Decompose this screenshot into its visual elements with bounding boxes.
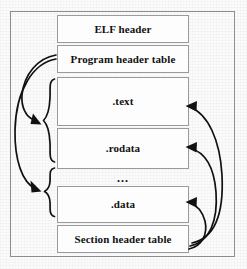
- sections-ellipsis: ...: [57, 171, 189, 185]
- rodata-section-box: .rodata: [57, 128, 189, 169]
- section-header-table-box: Section header table: [57, 225, 189, 253]
- elf-header-label: ELF header: [94, 23, 151, 34]
- program-header-table-label: Program header table: [71, 53, 176, 64]
- data-section-box: .data: [57, 186, 189, 223]
- rodata-section-label: .rodata: [106, 143, 140, 154]
- text-section-label: .text: [113, 96, 134, 107]
- section-header-table-label: Section header table: [74, 233, 171, 244]
- figure-canvas: ELF header Program header table .text .r…: [0, 0, 247, 269]
- elf-header-box: ELF header: [57, 15, 189, 43]
- data-section-label: .data: [111, 199, 135, 210]
- program-header-table-box: Program header table: [57, 45, 189, 73]
- sections-ellipsis-label: ...: [117, 172, 129, 184]
- text-section-box: .text: [57, 77, 189, 126]
